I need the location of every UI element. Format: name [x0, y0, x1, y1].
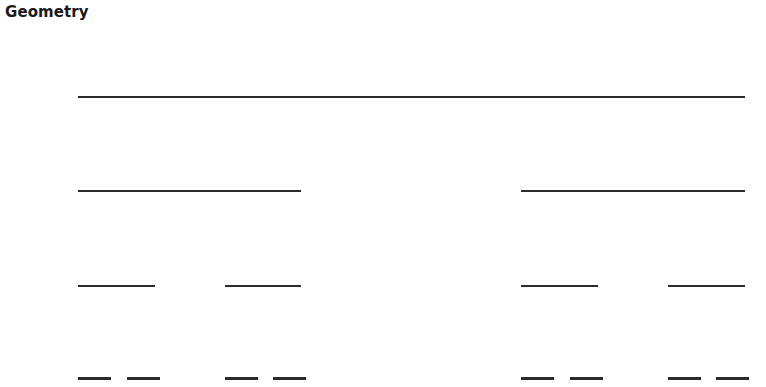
line-segment: [668, 377, 701, 380]
line-segment: [225, 377, 258, 380]
line-segment: [521, 377, 554, 380]
line-segment: [570, 377, 603, 380]
line-segment: [78, 285, 155, 287]
line-segment: [127, 377, 160, 380]
line-segment: [521, 190, 745, 192]
plot-area: [0, 0, 766, 387]
line-segment: [668, 285, 745, 287]
line-segment: [78, 96, 745, 98]
line-segment: [716, 377, 749, 380]
line-segment: [225, 285, 301, 287]
figure-root: Geometry: [0, 0, 766, 387]
line-segment: [521, 285, 598, 287]
line-segment: [78, 190, 301, 192]
line-segment: [78, 377, 111, 380]
line-segment: [273, 377, 306, 380]
